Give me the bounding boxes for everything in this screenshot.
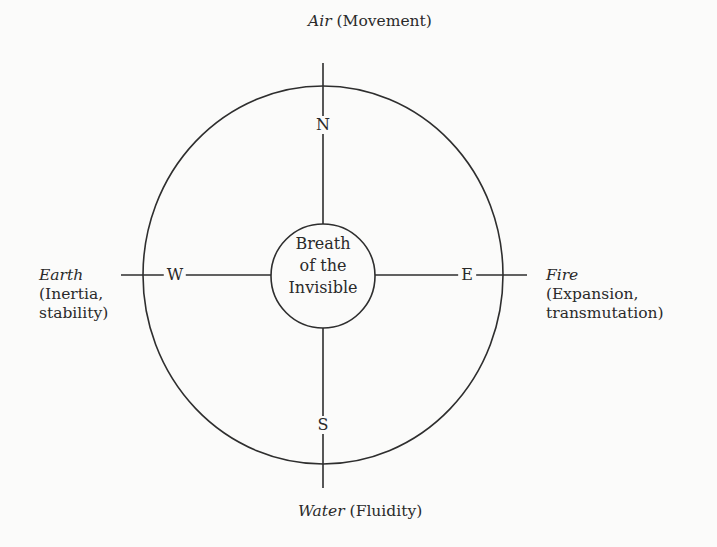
air-quality: (Movement) xyxy=(337,12,432,30)
center-label-line-2: of the xyxy=(273,255,373,277)
west-element-label: Earth (Inertia, stability) xyxy=(39,266,108,323)
direction-east-label: E xyxy=(458,266,476,284)
center-label-line-1: Breath xyxy=(273,233,373,255)
fire-quality-line-1: (Expansion, xyxy=(546,285,664,304)
earth-quality-line-1: (Inertia, xyxy=(39,285,108,304)
water-quality: (Fluidity) xyxy=(350,502,423,520)
direction-north-label: N xyxy=(313,116,333,134)
direction-south-label: S xyxy=(315,416,332,434)
center-label-line-3: Invisible xyxy=(273,277,373,299)
water-element-name: Water xyxy=(298,502,345,520)
south-element-label: Water (Fluidity) xyxy=(298,502,422,521)
direction-west-label: W xyxy=(164,266,186,284)
east-element-label: Fire (Expansion, transmutation) xyxy=(546,266,664,323)
fire-element-name: Fire xyxy=(546,266,578,284)
fire-quality-line-2: transmutation) xyxy=(546,304,664,323)
earth-quality-line-2: stability) xyxy=(39,304,108,323)
north-element-label: Air (Movement) xyxy=(308,12,432,31)
center-label: Breath of the Invisible xyxy=(273,233,373,299)
air-element-name: Air xyxy=(308,12,332,30)
earth-element-name: Earth xyxy=(39,266,83,284)
